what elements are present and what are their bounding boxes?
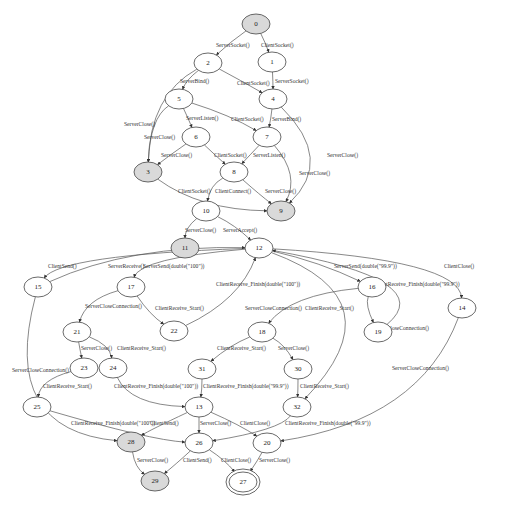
state-node-22-label: 22 bbox=[171, 327, 179, 335]
state-node-18-label: 18 bbox=[259, 328, 267, 336]
state-node-11-label: 11 bbox=[182, 244, 189, 252]
edges-layer bbox=[27, 31, 461, 474]
state-node-17-label: 17 bbox=[128, 283, 136, 291]
state-node-10-label: 10 bbox=[203, 207, 211, 215]
edge-label-12-to-14: ClientClose() bbox=[444, 263, 474, 270]
edge-label-7-to-8: ServerListen() bbox=[253, 152, 285, 159]
edge-label-23-to-25: ClientReceive_Start() bbox=[43, 383, 92, 390]
state-node-31: 31 bbox=[188, 359, 216, 379]
edge-label-24-to-13: ClientReceive_Finish(double("100")) bbox=[114, 383, 198, 390]
state-node-8-label: 8 bbox=[232, 168, 236, 176]
state-node-20: 20 bbox=[253, 433, 281, 453]
state-node-0-label: 0 bbox=[254, 20, 258, 28]
edge-12-to-32 bbox=[271, 253, 345, 399]
state-node-20-label: 20 bbox=[264, 439, 272, 447]
state-node-14-label: 14 bbox=[459, 304, 467, 312]
state-node-30: 30 bbox=[284, 359, 312, 379]
state-node-6: 6 bbox=[182, 127, 210, 147]
state-node-7-label: 7 bbox=[265, 133, 269, 141]
edge-label-6-to-8: ClientSocket() bbox=[214, 152, 247, 159]
state-node-21-label: 21 bbox=[74, 328, 82, 336]
edge-label-8-to-9: ServerClose() bbox=[265, 188, 296, 195]
state-node-24-label: 24 bbox=[110, 364, 118, 372]
edge-label-12-to-17: ServerReceive() bbox=[108, 263, 144, 270]
state-node-2-label: 2 bbox=[206, 59, 210, 67]
state-node-0: 0 bbox=[242, 14, 270, 34]
edge-label-8-to-10: ClientConnect() bbox=[215, 188, 251, 195]
edge-label-26-to-27: ClientClose() bbox=[221, 457, 251, 464]
edge-label-4-to-9: ServerClose() bbox=[327, 152, 358, 159]
state-node-25-label: 25 bbox=[34, 403, 42, 411]
state-node-16: 16 bbox=[358, 277, 386, 297]
state-node-2: 2 bbox=[194, 53, 222, 73]
edge-label-21-to-23: ServerClose() bbox=[81, 345, 112, 352]
state-node-27-label: 27 bbox=[240, 478, 248, 486]
edge-label-12-to-16: ServerSend(double("99.9")) bbox=[334, 263, 397, 270]
edge-31-to-13 bbox=[201, 379, 202, 397]
state-node-32-label: 32 bbox=[294, 403, 302, 411]
state-node-12-label: 12 bbox=[256, 244, 264, 252]
state-node-13: 13 bbox=[185, 397, 213, 417]
state-node-15: 15 bbox=[24, 277, 52, 297]
edge-label-14-to-20: ServerCloseConnection() bbox=[392, 365, 449, 372]
state-node-28: 28 bbox=[117, 432, 145, 452]
state-node-4-label: 4 bbox=[271, 95, 275, 103]
edge-label-18-to-30: ServerClose() bbox=[278, 345, 309, 352]
edge-label-26-to-29: ClientSend() bbox=[183, 457, 212, 464]
edge-label-0-to-2: ServerSocket() bbox=[216, 42, 250, 49]
state-node-31-label: 31 bbox=[199, 365, 207, 373]
edge-28-to-29 bbox=[133, 452, 145, 474]
edge-16-to-19 bbox=[367, 297, 373, 323]
edge-labels-layer: ServerSocket()ClientSocket()ServerBind()… bbox=[12, 42, 474, 464]
state-node-5: 5 bbox=[165, 89, 193, 109]
edge-label-12-to-15: ClientSend() bbox=[48, 263, 77, 270]
state-node-24: 24 bbox=[99, 358, 127, 378]
edge-label-13-to-28: ClientSend() bbox=[150, 420, 179, 427]
state-node-8: 8 bbox=[220, 162, 248, 182]
edge-label-10-to-11: ServerClose() bbox=[185, 227, 216, 234]
edge-label-3-to-9: ClientSocket() bbox=[178, 188, 211, 195]
state-node-21: 21 bbox=[63, 322, 91, 342]
state-node-23: 23 bbox=[70, 358, 98, 378]
state-node-25: 25 bbox=[23, 397, 51, 417]
edge-label-21-to-24: ClientReceive_Start() bbox=[117, 345, 166, 352]
edge-label-22-to-12: ClientReceive_Finish(double("100")) bbox=[216, 281, 300, 288]
edge-label-28-to-29: ServerClose() bbox=[137, 457, 168, 464]
state-node-1: 1 bbox=[258, 52, 286, 72]
state-graph: ServerSocket()ClientSocket()ServerBind()… bbox=[0, 0, 508, 505]
state-node-22: 22 bbox=[160, 321, 188, 341]
state-node-28-label: 28 bbox=[128, 438, 136, 446]
state-node-3-label: 3 bbox=[146, 168, 150, 176]
edge-label-32-to-26: ClientReceive_Finish(double("99.9")) bbox=[285, 420, 371, 427]
state-node-23-label: 23 bbox=[81, 364, 89, 372]
state-node-19: 19 bbox=[364, 322, 392, 342]
state-node-10: 10 bbox=[192, 201, 220, 221]
state-node-19-label: 19 bbox=[375, 328, 383, 336]
edge-label-17-to-22: ClientReceive_Start() bbox=[155, 305, 204, 312]
state-node-1-label: 1 bbox=[270, 58, 274, 66]
edge-label-30-to-32: ClientReceive_Start() bbox=[300, 383, 349, 390]
edge-label-1-to-4: ServerSocket() bbox=[275, 78, 309, 85]
edge-label-16-to-18: ServerCloseConnection() bbox=[245, 305, 302, 312]
state-node-5-label: 5 bbox=[177, 95, 181, 103]
state-node-29-label: 29 bbox=[152, 477, 160, 485]
edge-label-25-to-26: ClientReceive_Finish(double("100")) bbox=[71, 420, 155, 427]
edge-label-18-to-31: ClientReceive_Start() bbox=[217, 345, 266, 352]
edge-label-5-to-7: ClientSocket() bbox=[231, 116, 264, 123]
edge-label-15-to-12: ServerSend(double("100")) bbox=[143, 263, 205, 270]
edge-label-2-to-3: ServerClose() bbox=[124, 121, 155, 128]
state-node-12: 12 bbox=[245, 238, 273, 258]
state-node-13-label: 13 bbox=[196, 403, 204, 411]
edge-label-2-to-4: ClientSocket() bbox=[237, 80, 270, 87]
edge-label-17-to-21: ServerCloseConnection() bbox=[85, 303, 142, 310]
state-node-27: 27 bbox=[226, 469, 260, 495]
state-node-16-label: 16 bbox=[369, 283, 377, 291]
state-node-9: 9 bbox=[267, 201, 295, 221]
state-node-26: 26 bbox=[185, 433, 213, 453]
edge-label-4-to-7: ServerBind() bbox=[272, 116, 301, 123]
state-node-17: 17 bbox=[117, 277, 145, 297]
state-node-14: 14 bbox=[448, 298, 476, 318]
edge-label-2-to-5: ServerBind() bbox=[180, 78, 209, 85]
edge-1-to-4 bbox=[272, 72, 273, 89]
edge-label-16-to-19: ClientReceive_Start() bbox=[305, 305, 354, 312]
